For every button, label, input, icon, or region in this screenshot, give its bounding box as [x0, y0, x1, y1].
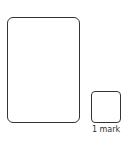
working-box[interactable]	[7, 17, 80, 123]
mark-label: 1 mark	[88, 125, 124, 135]
answer-box[interactable]	[91, 91, 121, 123]
